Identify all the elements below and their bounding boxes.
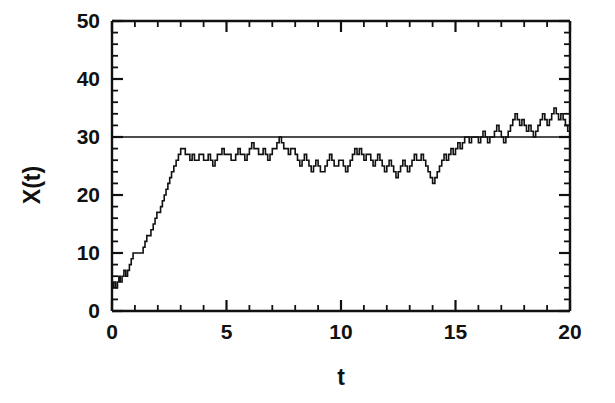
y-tick-label-0: 0 [88, 299, 100, 322]
chart-figure: 05101520 01020304050 t X(t) [0, 0, 615, 403]
x-tick-label-10: 10 [329, 320, 352, 343]
x-axis-label: t [337, 364, 345, 390]
y-tick-label-50: 50 [77, 9, 100, 32]
x-tick-label-0: 0 [106, 320, 118, 343]
x-axis-ticks [112, 21, 570, 311]
y-tick-label-20: 20 [77, 183, 100, 206]
y-tick-label-10: 10 [77, 241, 100, 264]
x-tick-label-15: 15 [444, 320, 468, 343]
data-series-X(t) [112, 108, 570, 288]
data-series-layer [112, 108, 570, 288]
x-tick-label-20: 20 [558, 320, 581, 343]
y-tick-label-30: 30 [77, 125, 100, 148]
xt-time-series-plot: 05101520 01020304050 t X(t) [0, 0, 615, 403]
y-tick-label-40: 40 [77, 67, 100, 90]
x-tick-label-5: 5 [221, 320, 233, 343]
x-axis-tick-labels: 05101520 [106, 320, 582, 343]
y-axis-label: X(t) [19, 166, 45, 204]
y-axis-tick-labels: 01020304050 [77, 9, 100, 322]
plot-frame [112, 21, 570, 311]
y-axis-ticks [112, 21, 570, 311]
